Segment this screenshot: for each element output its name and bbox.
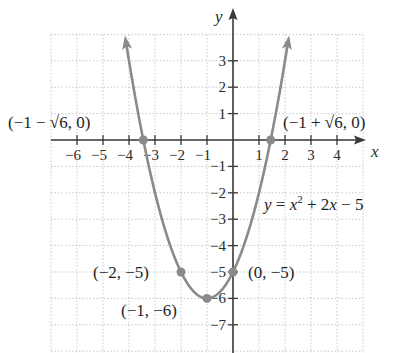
point-marker [266, 136, 275, 145]
root-left-label: (−1 − √6, 0) [8, 113, 90, 132]
x-tick-label: −5 [91, 147, 107, 163]
point-marker [177, 268, 186, 277]
y-tick-label: −5 [210, 264, 226, 280]
point-marker [229, 268, 238, 277]
equation-label: y = x2 + 2x − 5 [262, 193, 363, 214]
y-intercept-label: (0, −5) [248, 263, 294, 282]
y-tick-label: −4 [210, 238, 226, 254]
x-tick-label: 3 [307, 147, 315, 163]
y-axis-label: y [213, 7, 223, 26]
x-tick-label: 1 [255, 147, 263, 163]
x-tick-label: −4 [117, 147, 133, 163]
x-tick-label: −6 [65, 147, 81, 163]
y-tick-label: 1 [219, 106, 227, 122]
vertex-label: (−1, −6) [121, 301, 177, 320]
x-tick-label: −1 [195, 147, 211, 163]
y-tick-label: 2 [219, 79, 227, 95]
point-marker [203, 294, 212, 303]
y-tick-label: −2 [210, 185, 226, 201]
point-marker [139, 136, 148, 145]
x-tick-label: 2 [281, 147, 289, 163]
y-ticks: 321−1−2−3−4−5−6−7 [210, 53, 238, 333]
y-tick-label: −7 [210, 317, 226, 333]
grid [51, 34, 363, 353]
x-tick-label: −2 [169, 147, 185, 163]
y-tick-label: −1 [210, 158, 226, 174]
y-tick-label: −3 [210, 211, 226, 227]
root-right-label: (−1 + √6, 0) [283, 113, 365, 132]
parabola-chart: x y −6−5−4−3−2−11234 321−1−2−3−4−5−6−7 (… [0, 0, 409, 353]
point-minus2-label: (−2, −5) [93, 263, 149, 282]
x-axis-label: x [370, 142, 379, 161]
y-tick-label: 3 [219, 53, 227, 69]
x-tick-label: 4 [333, 147, 341, 163]
